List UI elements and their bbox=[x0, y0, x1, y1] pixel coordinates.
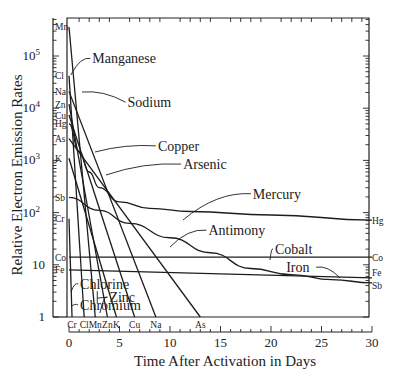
left-label-co: Co bbox=[55, 253, 66, 263]
left-label-na: Na bbox=[55, 87, 67, 97]
right-label-fe: Fe bbox=[372, 268, 382, 278]
x-tick-label: 25 bbox=[315, 335, 328, 350]
bottom-label-cu: Cu bbox=[129, 320, 140, 330]
bottom-label-k: K bbox=[113, 320, 120, 330]
left-label-fe: Fe bbox=[55, 265, 65, 275]
right-label-sb: Sb bbox=[372, 281, 382, 291]
x-tick-label: 0 bbox=[66, 335, 73, 350]
bottom-label-zn: Zn bbox=[102, 320, 113, 330]
leader-copper bbox=[95, 145, 156, 152]
annotation-copper: Copper bbox=[158, 139, 200, 154]
left-label-sb: Sb bbox=[55, 193, 65, 203]
y-tick-label: 103 bbox=[23, 151, 41, 167]
left-label-hg: Hg bbox=[55, 119, 67, 129]
x-tick-label: 10 bbox=[164, 335, 177, 350]
leader-chlorine bbox=[71, 284, 78, 292]
annotation-chromium: Chromium bbox=[80, 298, 141, 313]
x-tick-label: 15 bbox=[214, 335, 227, 350]
left-label-zn: Zn bbox=[55, 100, 66, 110]
y-axis-title: Relative Electron Emission Rates bbox=[9, 74, 25, 275]
bottom-label-cr: Cr bbox=[67, 320, 77, 330]
annotation-mercury: Mercury bbox=[253, 187, 301, 202]
annotation-arsenic: Arsenic bbox=[183, 157, 227, 172]
left-label-cr: Cr bbox=[55, 214, 65, 224]
right-label-co: Co bbox=[372, 253, 383, 263]
annotation-manganese: Manganese bbox=[92, 51, 156, 66]
x-axis-title: Time After Activation in Days bbox=[134, 353, 316, 369]
emission-rate-chart: 110102103104105051015202530MnClNaZnCuHgA… bbox=[0, 0, 401, 380]
y-tick-label: 104 bbox=[23, 99, 41, 115]
bottom-label-na: Na bbox=[150, 320, 162, 330]
x-tick-label: 5 bbox=[116, 335, 123, 350]
annotation-iron: Iron bbox=[286, 260, 309, 275]
curve-chromium bbox=[69, 219, 72, 317]
chart-container: 110102103104105051015202530MnClNaZnCuHgA… bbox=[0, 0, 401, 380]
y-tick-label: 102 bbox=[23, 204, 41, 220]
left-label-mn: Mn bbox=[55, 22, 68, 32]
right-label-hg: Hg bbox=[372, 216, 384, 226]
x-tick-label: 30 bbox=[366, 335, 379, 350]
bottom-label-cl: Cl bbox=[80, 320, 89, 330]
y-tick-label: 10 bbox=[32, 257, 45, 272]
left-label-as: As bbox=[55, 134, 66, 144]
leader-arsenic bbox=[106, 164, 181, 175]
annotation-antimony: Antimony bbox=[208, 223, 265, 238]
bottom-label-mn: Mn bbox=[89, 320, 102, 330]
x-tick-label: 20 bbox=[265, 335, 278, 350]
left-label-cl: Cl bbox=[55, 71, 64, 81]
leader-sodium bbox=[82, 92, 126, 103]
y-tick-label: 1 bbox=[39, 309, 46, 324]
annotation-cobalt: Cobalt bbox=[275, 242, 312, 257]
annotation-sodium: Sodium bbox=[128, 95, 172, 110]
bottom-label-as: As bbox=[195, 320, 206, 330]
y-tick-label: 105 bbox=[23, 47, 41, 63]
leader-mercury bbox=[183, 194, 251, 220]
left-label-k: K bbox=[55, 154, 62, 164]
leader-cobalt bbox=[270, 249, 273, 260]
